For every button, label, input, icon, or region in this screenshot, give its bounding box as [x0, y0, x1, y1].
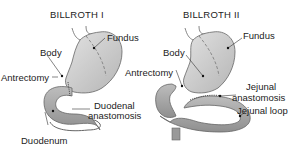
label-jejunal-loop: Jejunal loop [237, 106, 288, 116]
label-anastomosis-right-line2: anastomosis [232, 93, 285, 103]
label-duodenum: Duodenum [21, 136, 67, 146]
duodenal-stump-shape [156, 84, 176, 118]
label-body-right: Body [163, 48, 185, 58]
label-fundus-left: Fundus [107, 33, 139, 43]
billroth-2-illustration [156, 26, 251, 140]
label-antrectomy-left: Antrectomy [1, 73, 49, 83]
label-body-left: Body [40, 48, 62, 58]
billroth-2-title: BILLROTH II [183, 9, 240, 20]
label-fundus-right: Fundus [243, 31, 275, 41]
duodenum-shape [44, 87, 100, 130]
label-antrectomy-right: Antrectomy [125, 68, 173, 78]
stomach-shape-2 [183, 32, 235, 93]
billroth-1-title: BILLROTH I [50, 9, 104, 20]
label-anastomosis-left-line2: anastomosis [88, 111, 141, 121]
label-anastomosis-right-line1: Jejunal [246, 82, 276, 92]
